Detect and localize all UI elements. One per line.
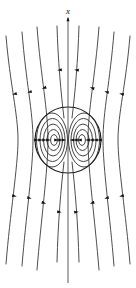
inner-arrow-right-3	[85, 139, 90, 142]
inner-arrow-left-3	[46, 139, 51, 142]
inner-arrow-left-2	[42, 139, 47, 142]
inner-streamline-left	[57, 26, 64, 118]
outer-streamline-right-3	[88, 27, 99, 270]
outer-streamline-right-1	[118, 36, 130, 264]
inner-arrow-left-6	[62, 139, 67, 142]
outer-streamline-left-2-arrow-0	[27, 90, 32, 94]
outer-streamline-left-3	[37, 27, 48, 270]
outer-streamline-right-2	[103, 32, 114, 266]
inner-arrow-left-1	[38, 139, 43, 142]
inner-arrow-right-4	[89, 139, 94, 142]
figure-root: x	[0, 0, 136, 288]
streamline-diagram: x	[0, 0, 136, 288]
outer-streamline-right-2-arrow-1	[104, 196, 109, 200]
inner-arrow-right-5	[93, 139, 98, 142]
outer-streamline-left-1	[6, 36, 18, 264]
outer-streamline-left-2-arrow-1	[27, 196, 32, 200]
inner-streamline-right	[72, 26, 79, 118]
outer-streamline-left-2	[22, 32, 33, 266]
inner-arrow-right-2	[77, 139, 82, 142]
axis-label-x: x	[65, 6, 70, 16]
outer-streamline-right-2-arrow-0	[104, 90, 109, 94]
inner-arrow-left-4	[54, 139, 59, 142]
axis-arrowhead	[67, 17, 70, 22]
